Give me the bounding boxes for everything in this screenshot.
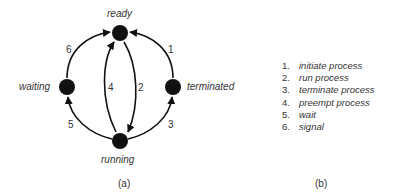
edge-label-5: 5 <box>68 119 74 130</box>
edge-label-2: 2 <box>138 82 144 93</box>
node-label-waiting: waiting <box>19 81 50 92</box>
legend-item: 1.initiate process <box>282 60 375 72</box>
edge-label-6: 6 <box>66 44 72 55</box>
node-label-running: running <box>101 154 134 165</box>
edge-label-4: 4 <box>108 82 114 93</box>
node-waiting <box>59 79 75 95</box>
edge-2 <box>124 42 136 132</box>
edge-1 <box>130 32 173 78</box>
node-label-terminated: terminated <box>187 81 234 92</box>
edge-label-3: 3 <box>168 119 174 130</box>
legend-item: 3.terminate process <box>282 84 375 96</box>
legend-item: 5.wait <box>282 109 375 121</box>
caption-a: (a) <box>118 178 130 189</box>
edge-6 <box>67 32 110 78</box>
node-label-ready: ready <box>107 8 132 19</box>
legend-item: 4.preempt process <box>282 97 375 109</box>
legend-item: 2.run process <box>282 72 375 84</box>
legend: 1.initiate process 2.run process 3.termi… <box>282 60 375 133</box>
caption-b: (b) <box>315 178 327 189</box>
node-ready <box>112 25 128 41</box>
edge-label-1: 1 <box>168 44 174 55</box>
edge-5 <box>68 97 112 139</box>
node-terminated <box>165 79 181 95</box>
legend-item: 6.signal <box>282 121 375 133</box>
node-running <box>112 133 128 149</box>
